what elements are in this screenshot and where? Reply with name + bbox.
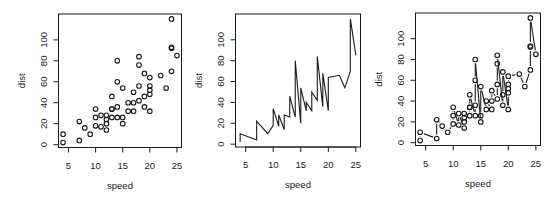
- data-point: [528, 68, 533, 73]
- x-axis-label: speed: [107, 180, 133, 191]
- data-point: [115, 115, 120, 120]
- y-tick-label: 60: [216, 76, 227, 87]
- data-point: [418, 130, 423, 135]
- data-point: [93, 107, 98, 112]
- data-point: [88, 132, 93, 137]
- data-point: [137, 84, 142, 89]
- x-tick-label: 25: [172, 160, 183, 171]
- data-point: [534, 52, 539, 57]
- data-point: [142, 71, 147, 76]
- data-point: [61, 132, 66, 137]
- data-point: [467, 93, 472, 98]
- data-point: [489, 99, 494, 104]
- y-axis: 020406080100: [216, 32, 236, 147]
- x-tick-label: 5: [243, 159, 248, 170]
- data-point: [434, 136, 439, 141]
- y-axis-label: dist: [16, 73, 27, 88]
- data-point: [164, 86, 169, 91]
- data-point: [99, 113, 104, 118]
- data-point: [517, 72, 522, 77]
- data-point: [495, 53, 500, 58]
- data-point: [110, 115, 115, 120]
- y-tick-label: 40: [396, 96, 407, 107]
- data-point: [131, 109, 136, 114]
- data-point: [484, 107, 489, 112]
- x-tick-label: 15: [475, 158, 486, 169]
- data-series: [240, 19, 356, 142]
- data-point: [126, 100, 131, 105]
- y-tick-label: 60: [396, 75, 407, 86]
- data-point: [451, 105, 456, 110]
- panel-both: 510152025speed020406080100dist: [373, 13, 542, 189]
- data-series: [418, 16, 538, 143]
- y-tick-label: 80: [39, 56, 50, 67]
- data-point: [93, 123, 98, 128]
- y-axis-label: dist: [373, 72, 384, 87]
- x-tick-label: 25: [351, 159, 362, 170]
- data-point: [456, 123, 461, 128]
- data-point: [434, 117, 439, 122]
- y-axis-label: dist: [193, 73, 204, 88]
- data-point: [506, 74, 511, 79]
- data-point: [115, 79, 120, 84]
- data-point: [137, 98, 142, 103]
- y-tick-label: 60: [39, 77, 50, 88]
- x-tick-label: 10: [90, 160, 101, 171]
- data-point: [462, 126, 467, 131]
- data-point: [142, 105, 147, 110]
- data-point: [501, 70, 506, 75]
- data-point: [61, 140, 66, 145]
- x-tick-label: 5: [423, 158, 428, 169]
- y-tick-label: 20: [39, 118, 50, 129]
- data-point: [473, 57, 478, 62]
- y-tick-label: 100: [396, 31, 407, 47]
- data-point: [131, 100, 136, 105]
- data-point: [175, 53, 180, 58]
- data-point: [418, 138, 423, 143]
- y-tick-label: 0: [39, 142, 50, 147]
- data-point: [126, 109, 131, 114]
- x-axis: 510152025: [423, 146, 541, 169]
- data-point: [523, 84, 528, 89]
- y-tick-label: 100: [216, 32, 227, 48]
- x-axis-label: speed: [285, 179, 311, 190]
- data-point: [489, 107, 494, 112]
- data-point: [82, 126, 87, 131]
- y-tick-label: 40: [39, 97, 50, 108]
- data-point: [456, 111, 461, 116]
- data-point: [137, 54, 142, 59]
- data-point: [478, 120, 483, 125]
- data-point: [77, 119, 82, 124]
- y-tick-label: 80: [396, 54, 407, 65]
- data-point: [169, 17, 174, 22]
- y-tick-label: 80: [216, 55, 227, 66]
- x-axis: 510152025: [66, 148, 182, 171]
- panel-points: 510152025speed020406080100dist: [16, 14, 183, 191]
- data-point: [495, 82, 500, 87]
- data-point: [445, 130, 450, 135]
- x-tick-label: 25: [531, 158, 542, 169]
- data-point: [451, 122, 456, 127]
- data-point: [110, 94, 115, 99]
- data-point: [478, 84, 483, 89]
- x-tick-label: 20: [145, 160, 156, 171]
- x-axis: 510152025: [243, 147, 361, 170]
- y-axis: 020406080100: [396, 31, 416, 146]
- data-series: [61, 17, 179, 145]
- data-point: [99, 125, 104, 130]
- data-point: [131, 90, 136, 95]
- data-point: [77, 138, 82, 143]
- data-point: [120, 121, 125, 126]
- plot-box: [59, 14, 182, 148]
- data-point: [473, 113, 478, 118]
- data-point: [440, 124, 445, 129]
- data-point: [142, 94, 147, 99]
- y-tick-label: 100: [39, 32, 50, 48]
- panel-lines: 510152025speed020406080100dist: [193, 14, 362, 190]
- figure: 510152025speed020406080100dist 510152025…: [0, 0, 559, 198]
- y-tick-label: 20: [216, 118, 227, 129]
- y-tick-label: 40: [216, 97, 227, 108]
- x-axis-label: speed: [465, 178, 491, 189]
- data-point: [495, 97, 500, 102]
- x-tick-label: 15: [295, 159, 306, 170]
